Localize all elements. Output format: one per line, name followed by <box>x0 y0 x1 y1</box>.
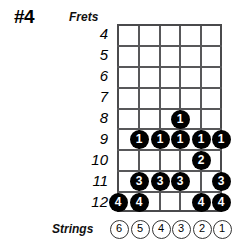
finger-dot-f9-s5: 1 <box>130 130 149 149</box>
string-number-5: 5 <box>131 220 150 239</box>
finger-dot-f11-s4: 3 <box>151 172 170 191</box>
string-number-6: 6 <box>110 220 129 239</box>
finger-dot-f9-s4: 1 <box>151 130 170 149</box>
finger-dot-f11-s5: 3 <box>130 172 149 191</box>
strings-axis-label: Strings <box>52 222 93 236</box>
string-number-3: 3 <box>172 220 191 239</box>
scale-diagram: #4 Frets 456789101112 111111233334444 St… <box>0 0 249 245</box>
finger-dot-f9-s1: 1 <box>212 130 231 149</box>
string-number-1: 1 <box>213 220 232 239</box>
string-line-6 <box>117 24 119 212</box>
finger-dot-f11-s3: 3 <box>171 172 190 191</box>
fret-number-10: 10 <box>82 153 108 167</box>
string-line-2 <box>200 24 202 212</box>
fret-number-8: 8 <box>82 111 108 125</box>
string-number-2: 2 <box>193 220 212 239</box>
finger-dot-f12-s6: 4 <box>109 193 128 212</box>
string-number-4: 4 <box>152 220 171 239</box>
fret-line-5 <box>117 66 222 68</box>
finger-dot-f11-s1: 3 <box>212 172 231 191</box>
fret-number-9: 9 <box>82 132 108 146</box>
fret-number-11: 11 <box>82 174 108 188</box>
finger-dot-f10-s2: 2 <box>192 151 211 170</box>
fret-line-4 <box>117 45 222 47</box>
frets-axis-label: Frets <box>69 10 98 24</box>
fret-line-10 <box>117 170 222 172</box>
fret-number-12: 12 <box>82 195 108 209</box>
fret-number-7: 7 <box>82 90 108 104</box>
fret-line-11 <box>117 191 222 193</box>
fret-line-top <box>117 24 222 26</box>
fret-number-6: 6 <box>82 69 108 83</box>
fretboard-grid: 111111233334444 <box>117 24 222 212</box>
finger-dot-f8-s3: 1 <box>171 110 190 129</box>
fret-number-4: 4 <box>82 27 108 41</box>
fret-line-8 <box>117 128 222 130</box>
finger-dot-f12-s2: 4 <box>192 193 211 212</box>
fret-line-7 <box>117 108 222 110</box>
finger-dot-f9-s3: 1 <box>171 130 190 149</box>
fret-line-9 <box>117 149 222 151</box>
finger-dot-f9-s2: 1 <box>192 130 211 149</box>
page-title: #4 <box>14 6 34 28</box>
fret-line-6 <box>117 87 222 89</box>
fret-number-5: 5 <box>82 48 108 62</box>
finger-dot-f12-s1: 4 <box>212 193 231 212</box>
finger-dot-f12-s5: 4 <box>130 193 149 212</box>
